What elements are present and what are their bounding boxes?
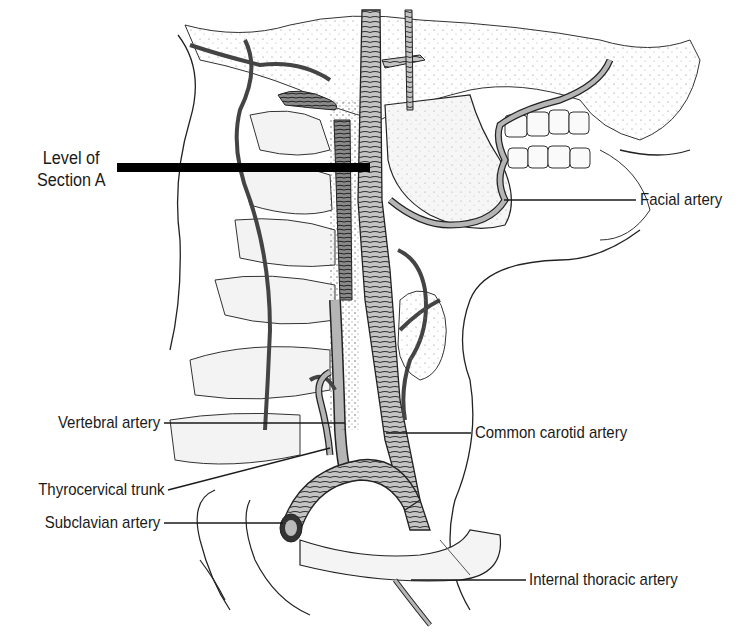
clavicle xyxy=(300,530,501,581)
label-facial-artery: Facial artery xyxy=(640,190,722,210)
label-internal-thoracic-artery: Internal thoracic artery xyxy=(529,570,678,590)
label-subclavian-artery: Subclavian artery xyxy=(44,513,160,533)
neck-illustration xyxy=(0,0,750,640)
thyroid-gland xyxy=(398,291,446,380)
label-common-carotid-artery: Common carotid artery xyxy=(475,423,627,443)
section-level-bar xyxy=(117,163,370,172)
anatomy-diagram: Level of Section A Facial artery Vertebr… xyxy=(0,0,750,640)
section-level-line1: Level of xyxy=(37,147,105,169)
subclavian-artery xyxy=(280,460,420,543)
section-level-line2: Section A xyxy=(37,169,105,191)
section-level-label: Level of Section A xyxy=(37,147,105,191)
label-vertebral-artery: Vertebral artery xyxy=(58,413,160,433)
label-thyrocervical-trunk: Thyrocervical trunk xyxy=(39,480,165,500)
